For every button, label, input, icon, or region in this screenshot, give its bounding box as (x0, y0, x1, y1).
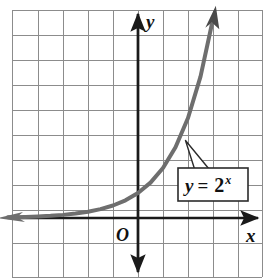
equation-exponent: x (224, 173, 231, 187)
graph-canvas: y = 2^x y=2x y x O (0, 0, 270, 280)
x-axis-label: x (245, 225, 256, 246)
chart-background (0, 0, 270, 280)
exponential-function-graph-figure: y = 2^x y=2x y x O (0, 0, 270, 280)
equation-y-term: y (183, 175, 194, 196)
origin-label: O (116, 225, 129, 245)
equation-base: 2 (214, 174, 224, 196)
equation-label-box: y = 2^x y=2x (178, 168, 248, 201)
equation-text: y=2x (183, 173, 231, 196)
equation-equals: = (197, 175, 208, 196)
y-axis-label: y (144, 11, 155, 32)
